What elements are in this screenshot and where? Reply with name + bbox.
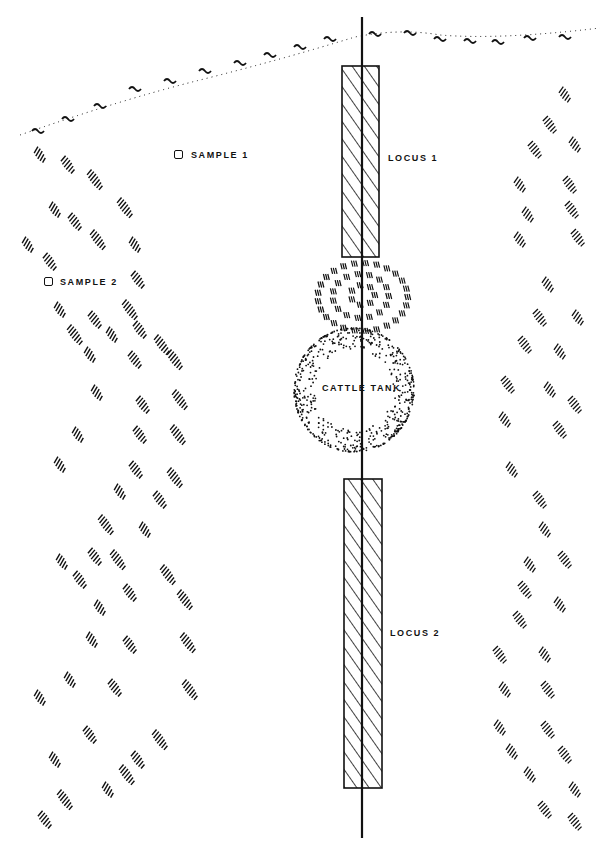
- sample-1-label: SAMPLE 1: [191, 150, 249, 160]
- site-plan-diagram: [0, 0, 614, 852]
- left-hatch-bands: [22, 147, 197, 829]
- right-hatch-bands: [493, 87, 585, 831]
- sample-2-label: SAMPLE 2: [60, 277, 118, 287]
- locus-1-label: LOCUS 1: [388, 153, 438, 163]
- shoreline: [20, 28, 600, 135]
- locus-1-rect: [342, 66, 379, 257]
- sample-1-marker: [174, 150, 183, 159]
- sample-2-marker: [44, 277, 53, 286]
- cattle-tank-text: CATTLE TANK: [322, 383, 401, 393]
- locus-2-label: LOCUS 2: [390, 628, 440, 638]
- cattle-tank-label: CATTLE TANK: [322, 383, 401, 393]
